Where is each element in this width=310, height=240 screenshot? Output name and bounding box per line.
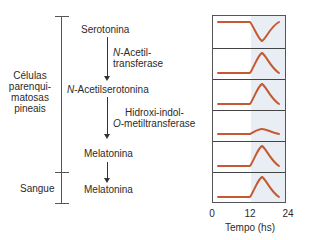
blood-label: Sangue bbox=[20, 183, 54, 194]
label-line: matosas bbox=[2, 92, 58, 103]
hiomt-curve bbox=[218, 129, 279, 134]
enzyme-2-label: Hidroxi-indol- O-metiltransferase bbox=[113, 107, 195, 129]
x-tick-24: 24 bbox=[280, 208, 296, 219]
melatonin-pineal-curve bbox=[218, 146, 279, 166]
bracket-bottom-tick bbox=[55, 203, 69, 204]
x-tick-12: 12 bbox=[242, 208, 258, 219]
label-line: Células bbox=[2, 70, 58, 81]
melatonin-pineal-label: Melatonina bbox=[84, 148, 133, 159]
label-line: pineais bbox=[2, 103, 58, 114]
melatonin-blood-curve bbox=[218, 177, 279, 197]
italic-o: O bbox=[113, 118, 121, 129]
bracket-line bbox=[61, 16, 62, 203]
curves bbox=[212, 15, 286, 203]
pineal-cells-label: Células parenqui- matosas pineais bbox=[2, 70, 58, 114]
arrow-2 bbox=[107, 97, 108, 135]
enzyme-1-line2: transferase bbox=[113, 58, 163, 69]
enzyme-2-line2: -metiltransferase bbox=[121, 118, 195, 129]
nat-curve bbox=[218, 53, 279, 73]
n-acetylserotonin-curve bbox=[218, 84, 279, 104]
serotonin-curve bbox=[218, 22, 279, 41]
n-acetylserotonin-text: -Acetilserotonina bbox=[74, 84, 148, 95]
arrow-3 bbox=[107, 162, 108, 179]
n-acetylserotonin-label: N-Acetilserotonina bbox=[67, 84, 149, 95]
enzyme-2-line1: Hidroxi-indol- bbox=[113, 107, 195, 118]
bracket-top-tick bbox=[55, 16, 69, 17]
enzyme-1-line1: -Acetil- bbox=[120, 47, 151, 58]
x-axis-label: Tempo (hs) bbox=[218, 222, 282, 233]
label-line: parenqui- bbox=[2, 81, 58, 92]
enzyme-1-label: N-Acetil- transferase bbox=[113, 47, 163, 69]
x-tick-0: 0 bbox=[206, 208, 218, 219]
arrow-1 bbox=[107, 37, 108, 77]
serotonin-label: Serotonina bbox=[81, 24, 129, 35]
melatonin-blood-label: Melatonina bbox=[84, 184, 133, 195]
bracket-mid-tick bbox=[55, 172, 69, 173]
